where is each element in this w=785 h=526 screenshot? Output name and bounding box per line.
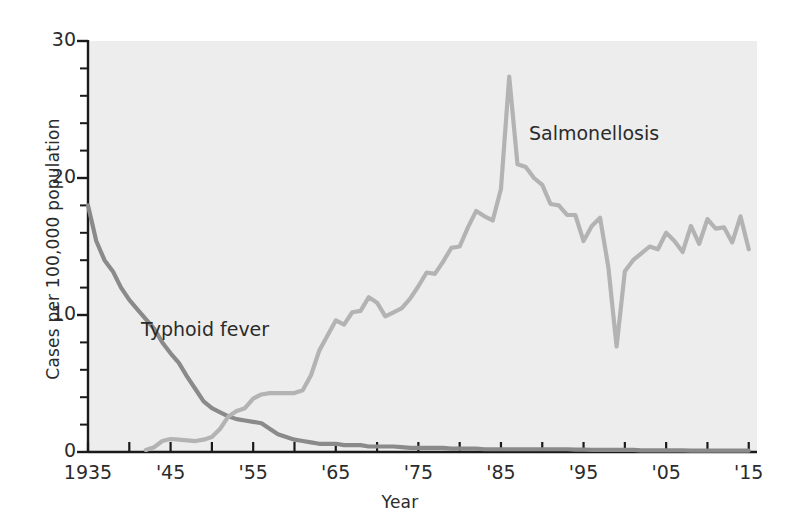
series-label-typhoid-fever: Typhoid fever (141, 318, 269, 340)
x-tick-label-2015: '15 (714, 461, 784, 483)
axes-group (77, 40, 757, 452)
x-tick-label-1985: '85 (466, 461, 536, 483)
x-axis-title: Year (345, 492, 455, 512)
x-tick-label-2005: '05 (631, 461, 701, 483)
y-axis-title: Cases per 100,000 population (43, 79, 63, 419)
x-tick-label-1935: 1935 (53, 461, 123, 483)
x-tick-label-1965: '65 (301, 461, 371, 483)
x-tick-label-1995: '95 (549, 461, 619, 483)
chart-canvas (0, 0, 785, 526)
y-tick-label-30: 30 (30, 28, 76, 50)
x-tick-label-1975: '75 (383, 461, 453, 483)
y-tick-label-0: 0 (30, 439, 76, 461)
chart-figure: 0 10 20 30 1935'45'55'65'75'85'95'05'15 … (0, 0, 785, 526)
x-tick-label-1945: '45 (136, 461, 206, 483)
series-label-salmonellosis: Salmonellosis (529, 122, 659, 144)
x-tick-label-1955: '55 (218, 461, 288, 483)
